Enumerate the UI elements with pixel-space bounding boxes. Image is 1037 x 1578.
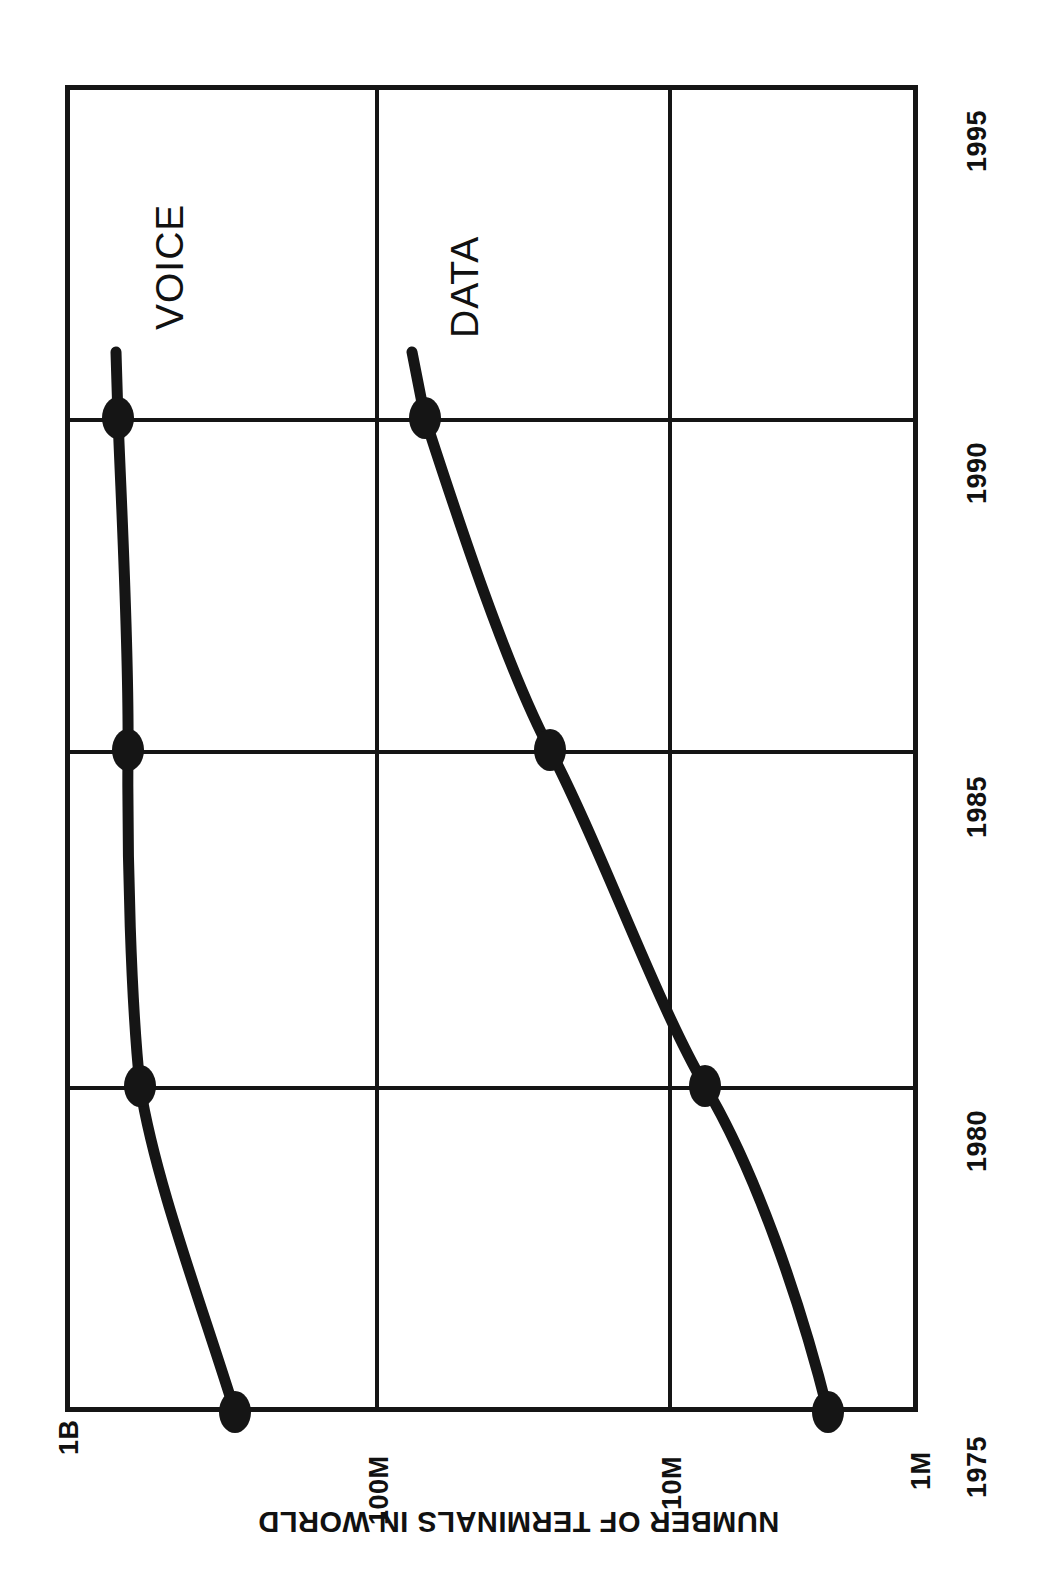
gridline-year-1980 — [65, 1086, 918, 1090]
year-tick-1980: 1980 — [962, 1110, 993, 1172]
value-tick-1m: 1M — [906, 1451, 937, 1490]
year-tick-1985: 1985 — [962, 776, 993, 838]
gridline-year-1985 — [65, 750, 918, 754]
value-tick-10m: 10M — [657, 1456, 688, 1510]
year-tick-1995: 1995 — [962, 110, 993, 172]
axis-title: NUMBER OF TERMINALS IN WORLD — [0, 1505, 1037, 1538]
series-label-data: DATA — [443, 236, 487, 338]
chart-figure: VOICE DATA 1B 100M 10M 1M 1975 1980 1985… — [0, 0, 1037, 1578]
gridline-value-100m — [375, 85, 379, 1412]
gridline-value-10m — [668, 85, 672, 1412]
series-label-voice: VOICE — [148, 204, 192, 330]
plot-area-frame — [65, 85, 918, 1412]
gridline-year-1990 — [65, 418, 918, 422]
year-tick-1975: 1975 — [962, 1436, 993, 1498]
year-tick-1990: 1990 — [962, 442, 993, 504]
value-tick-1b: 1B — [54, 1419, 85, 1455]
